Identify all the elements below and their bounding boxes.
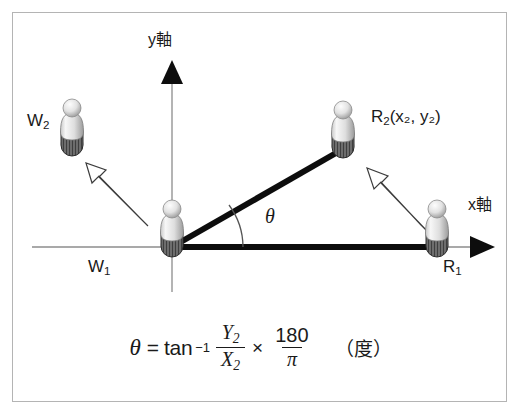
- segment-w1-r2: [172, 149, 343, 247]
- person-figure-w2: [61, 99, 84, 156]
- formula-numerator-180: 180: [270, 325, 313, 347]
- y-axis-arrowhead: [161, 60, 183, 84]
- formula-tan: tan: [164, 336, 192, 360]
- vector-segments: [172, 149, 437, 247]
- formula-fraction-180-over-pi: 180 π: [270, 325, 313, 370]
- x-axis-arrowhead: [470, 236, 495, 258]
- x-axis-label: x軸: [468, 197, 492, 213]
- point-label-w1: W1: [88, 258, 110, 278]
- point-label-r2: R2(x₂, y₂): [371, 108, 441, 128]
- point-label-r1: R1: [443, 258, 462, 278]
- arrow-w1-to-w2: [86, 163, 148, 226]
- formula-denominator-x: X2: [216, 347, 245, 373]
- person-figure-r2: [332, 101, 355, 158]
- formula-denominator-pi: π: [282, 347, 302, 370]
- formula-equals: =: [147, 336, 159, 360]
- point-label-w2-main: W: [27, 111, 43, 130]
- point-label-w1-sub: 1: [104, 265, 110, 277]
- formula-numerator-y: Y2: [217, 322, 245, 347]
- formula-times: ×: [252, 337, 263, 359]
- y-axis-label: y軸: [148, 32, 172, 48]
- formula-unit: （度）: [335, 334, 392, 361]
- point-label-w1-main: W: [88, 257, 104, 276]
- figure-root: y軸 x軸 W2 W1 R2(x₂, y₂) R1 θ θ = tan−1 Y2…: [0, 0, 521, 416]
- point-label-r1-sub: 1: [455, 265, 461, 277]
- angle-formula: θ = tan−1 Y2 X2 × 180 π （度）: [0, 322, 521, 373]
- formula-fraction-y-over-x: Y2 X2: [216, 322, 245, 373]
- point-label-w2: W2: [27, 112, 49, 132]
- point-label-r2-coords: (x₂, y₂): [390, 107, 441, 126]
- point-label-r1-main: R: [443, 257, 455, 276]
- point-label-w2-sub: 2: [43, 119, 49, 131]
- person-figure-w1: [161, 200, 184, 257]
- person-figure-r1: [426, 200, 449, 257]
- point-label-r2-main: R: [371, 107, 383, 126]
- formula-exponent: −1: [195, 340, 210, 355]
- theta-angle-label: θ: [265, 206, 275, 226]
- arrow-r1-to-r2: [367, 168, 428, 232]
- formula-theta: θ: [129, 335, 140, 361]
